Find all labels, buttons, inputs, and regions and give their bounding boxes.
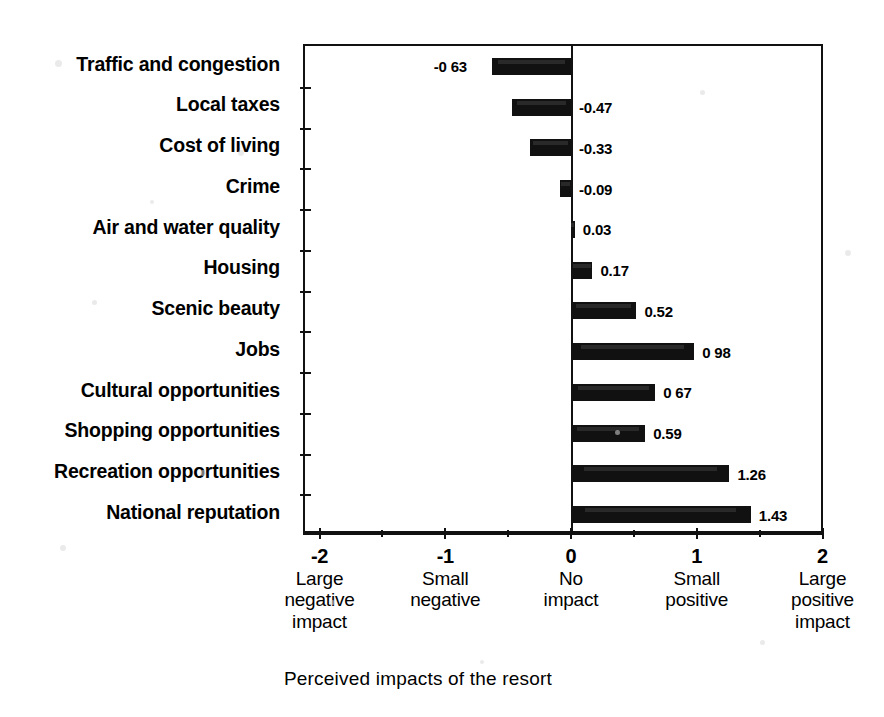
y-axis-tick [300, 168, 311, 170]
category-label: Scenic beauty [151, 299, 288, 319]
x-axis-title-text: Perceived impacts of the resort [284, 668, 552, 690]
category-label: National reputation [106, 503, 288, 523]
bar-value-label: 0.17 [600, 263, 628, 278]
category-row: Recreation opportunities [0, 452, 288, 493]
bar-value-label: -0.09 [579, 182, 612, 197]
bar-value-label: 0 67 [663, 385, 691, 400]
category-row: Traffic and congestion [0, 44, 288, 85]
bar [571, 343, 694, 360]
x-tick-description-line: negative [375, 589, 515, 610]
x-axis-major-tick [319, 528, 321, 539]
bar [512, 99, 571, 116]
category-label: Cultural opportunities [81, 381, 288, 401]
bar [492, 58, 571, 75]
category-label: Housing [203, 258, 288, 278]
x-axis-major-tick [696, 528, 698, 539]
x-tick-value: -2 [250, 545, 390, 568]
bar-value-label: 0.03 [583, 222, 611, 237]
category-row: National reputation [0, 492, 288, 533]
x-tick-value: 2 [753, 545, 884, 568]
category-row: Housing [0, 248, 288, 289]
x-tick-label-group: -2Largenegativeimpact [250, 545, 390, 632]
category-row: Jobs [0, 329, 288, 370]
x-tick-description-line: positive [753, 589, 884, 610]
y-axis-tick [300, 413, 311, 415]
chart-figure: Traffic and congestionLocal taxesCost of… [0, 0, 884, 717]
category-label: Cost of living [159, 136, 288, 156]
y-axis-tick [300, 87, 311, 89]
bar-value-label: 1.26 [737, 467, 765, 482]
bar-value-label: 0.52 [644, 304, 672, 319]
x-tick-description-line: impact [501, 589, 641, 610]
x-tick-label-group: 1Smallpositive [627, 545, 767, 611]
category-label: Local taxes [176, 95, 288, 115]
x-tick-description-line: Large [250, 568, 390, 589]
bar [571, 221, 575, 238]
bar [530, 139, 571, 156]
category-label: Crime [226, 177, 288, 197]
x-tick-description-line: positive [627, 589, 767, 610]
zero-axis-line [571, 46, 573, 531]
bar [571, 302, 636, 319]
x-tick-value: 0 [501, 545, 641, 568]
bar-value-label: -0.33 [579, 141, 612, 156]
x-axis-major-tick [822, 528, 824, 539]
category-axis-labels: Traffic and congestionLocal taxesCost of… [0, 44, 288, 533]
x-tick-description-line: No [501, 568, 641, 589]
category-row: Scenic beauty [0, 289, 288, 330]
category-row: Local taxes [0, 85, 288, 126]
x-axis-title: Perceived impacts of the resort [0, 668, 884, 690]
plot-area: -0 63-0.47-0.33-0.090.030.170.520 980 67… [303, 44, 823, 533]
x-tick-description-line: Small [627, 568, 767, 589]
x-tick-value: 1 [627, 545, 767, 568]
x-tick-description-line: Large [753, 568, 884, 589]
y-axis-tick [300, 331, 311, 333]
x-axis [303, 533, 823, 535]
category-row: Crime [0, 166, 288, 207]
x-axis-minor-tick [381, 530, 383, 537]
bar-value-label: -0 63 [434, 59, 467, 74]
category-label: Recreation opportunities [54, 462, 288, 482]
y-axis-tick [300, 250, 311, 252]
x-axis-minor-tick [507, 530, 509, 537]
y-axis-tick [300, 128, 311, 130]
x-tick-description-line: impact [250, 611, 390, 632]
x-axis-minor-tick [633, 530, 635, 537]
y-axis-tick [300, 372, 311, 374]
bar-value-label: 1.43 [759, 508, 787, 523]
bar-value-label: 0.59 [653, 426, 681, 441]
bar [571, 262, 592, 279]
category-label: Air and water quality [92, 218, 288, 238]
bar [571, 506, 751, 523]
scan-artifact [845, 250, 851, 256]
x-tick-label-group: -1Smallnegative [375, 545, 515, 611]
x-tick-label-group: 0Noimpact [501, 545, 641, 611]
y-axis-tick [300, 494, 311, 496]
x-tick-description-line: Small [375, 568, 515, 589]
bar [560, 180, 571, 197]
category-label: Shopping opportunities [65, 421, 288, 441]
y-axis-tick [300, 454, 311, 456]
bar [571, 384, 655, 401]
x-tick-value: -1 [375, 545, 515, 568]
x-axis-minor-tick [759, 530, 761, 537]
category-row: Shopping opportunities [0, 411, 288, 452]
x-tick-description-line: negative [250, 589, 390, 610]
x-axis-major-tick [444, 528, 446, 539]
y-axis-tick [300, 209, 311, 211]
x-axis-major-tick [570, 528, 572, 539]
category-row: Cost of living [0, 126, 288, 167]
category-row: Cultural opportunities [0, 370, 288, 411]
plot-inner: -0 63-0.47-0.33-0.090.030.170.520 980 67… [305, 46, 821, 531]
category-row: Air and water quality [0, 207, 288, 248]
category-label: Traffic and congestion [76, 55, 288, 75]
bar [571, 425, 645, 442]
bar-value-label: 0 98 [702, 345, 730, 360]
category-label: Jobs [235, 340, 288, 360]
x-tick-label-group: 2Largepositiveimpact [753, 545, 884, 632]
bar-value-label: -0.47 [579, 100, 612, 115]
x-tick-description-line: impact [753, 611, 884, 632]
y-axis-tick [300, 291, 311, 293]
x-axis-tick-labels: -2Largenegativeimpact-1Smallnegative0Noi… [0, 545, 884, 665]
bar [571, 465, 729, 482]
